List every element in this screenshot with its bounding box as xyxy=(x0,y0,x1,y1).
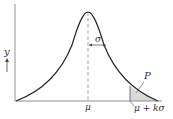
bell-curve xyxy=(16,12,158,101)
threshold-label: μ + kσ xyxy=(134,104,165,113)
probability-label: P xyxy=(144,71,151,81)
mean-label: μ xyxy=(85,103,91,112)
y-axis-label: y xyxy=(4,47,10,57)
sigma-label: σ xyxy=(95,35,101,44)
